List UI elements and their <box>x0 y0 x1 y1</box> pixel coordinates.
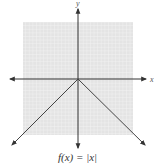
function-caption: f(x) = |x| <box>0 151 155 163</box>
graph: x y <box>0 0 155 168</box>
y-axis-label: y <box>75 0 80 8</box>
x-axis-label: x <box>149 75 154 84</box>
